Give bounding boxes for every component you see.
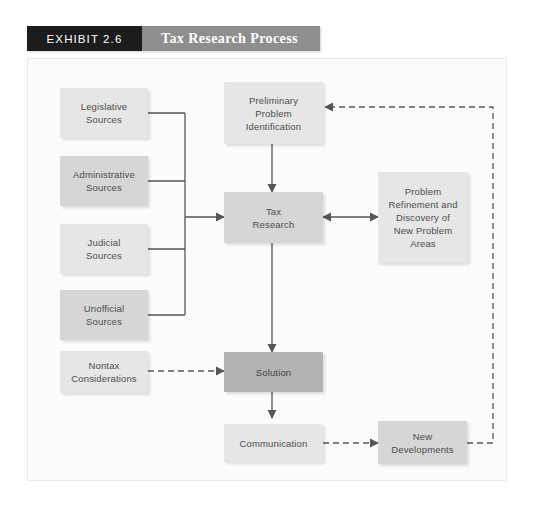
node-legislative-sources: Legislative Sources bbox=[60, 88, 148, 138]
node-problem-refinement-line2: Refinement and bbox=[388, 198, 457, 211]
node-preliminary-line1: Preliminary bbox=[246, 94, 301, 107]
node-judicial-sources-line2: Sources bbox=[86, 249, 122, 262]
node-new-developments: New Developments bbox=[378, 421, 467, 464]
exhibit-header: EXHIBIT 2.6 Tax Research Process bbox=[27, 26, 320, 51]
node-problem-refinement-line1: Problem bbox=[388, 185, 457, 198]
node-new-developments-line2: Developments bbox=[391, 443, 454, 456]
node-unofficial-sources: Unofficial Sources bbox=[60, 290, 148, 340]
exhibit-screen: EXHIBIT 2.6 Tax Research Process bbox=[0, 0, 536, 507]
node-legislative-sources-line2: Sources bbox=[81, 113, 128, 126]
node-problem-refinement-line5: Areas bbox=[388, 237, 457, 250]
node-new-developments-line1: New bbox=[391, 430, 454, 443]
node-nontax-considerations: Nontax Considerations bbox=[60, 351, 148, 393]
node-communication-line1: Communication bbox=[240, 437, 308, 450]
node-administrative-sources: Administrative Sources bbox=[60, 156, 148, 206]
node-unofficial-sources-line2: Sources bbox=[84, 315, 124, 328]
node-communication: Communication bbox=[224, 424, 323, 462]
node-unofficial-sources-line1: Unofficial bbox=[84, 302, 124, 315]
node-solution: Solution bbox=[224, 352, 323, 392]
node-preliminary-line3: Identification bbox=[246, 120, 301, 133]
node-administrative-sources-line1: Administrative bbox=[73, 168, 135, 181]
node-problem-refinement: Problem Refinement and Discovery of New … bbox=[378, 172, 468, 263]
node-tax-research-line2: Research bbox=[253, 218, 295, 231]
node-nontax-considerations-line1: Nontax bbox=[71, 359, 136, 372]
node-tax-research-line1: Tax bbox=[253, 205, 295, 218]
node-tax-research: Tax Research bbox=[224, 192, 323, 243]
node-solution-line1: Solution bbox=[256, 366, 292, 379]
node-preliminary-line2: Problem bbox=[246, 107, 301, 120]
exhibit-title-label: Tax Research Process bbox=[142, 26, 320, 51]
node-nontax-considerations-line2: Considerations bbox=[71, 372, 136, 385]
node-legislative-sources-line1: Legislative bbox=[81, 100, 128, 113]
node-judicial-sources-line1: Judicial bbox=[86, 236, 122, 249]
node-problem-refinement-line4: New Problem bbox=[388, 224, 457, 237]
node-judicial-sources: Judicial Sources bbox=[60, 224, 148, 274]
node-problem-refinement-line3: Discovery of bbox=[388, 211, 457, 224]
exhibit-number-label: EXHIBIT 2.6 bbox=[27, 26, 142, 51]
node-administrative-sources-line2: Sources bbox=[73, 181, 135, 194]
node-preliminary-problem-identification: Preliminary Problem Identification bbox=[224, 82, 323, 144]
